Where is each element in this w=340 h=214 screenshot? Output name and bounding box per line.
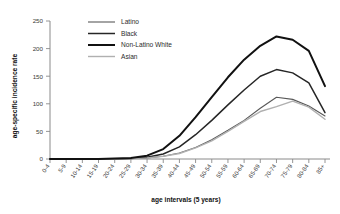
chart-figure: age-specific incidence rate 0 50 100 150… — [0, 0, 340, 214]
x-tick-label: 35-39 — [150, 163, 164, 180]
x-tick-label: 60-64 — [231, 163, 245, 180]
chart-legend: LatinoBlackNon-Latino WhiteAsian — [88, 18, 172, 60]
x-axis: 0-45-910-1415-1920-2425-2930-3435-3940-4… — [41, 159, 330, 204]
x-tick-label: 10-14 — [69, 163, 83, 180]
x-tick-label: 75-79 — [280, 163, 294, 180]
x-tick-label: 20-24 — [102, 163, 116, 180]
series-line-latino — [50, 97, 325, 159]
y-tick-label-200: 200 — [33, 45, 44, 52]
x-tick-label: 5-9 — [57, 163, 67, 174]
legend-label-non-latino-white: Non-Latino White — [121, 41, 172, 48]
legend-label-latino: Latino — [121, 18, 139, 25]
y-axis-title-group: age-specific incidence rate — [11, 54, 19, 139]
y-tick-label-150: 150 — [33, 73, 44, 80]
incidence-line-chart: age-specific incidence rate 0 50 100 150… — [0, 0, 340, 214]
x-tick-label: 80-84 — [296, 163, 310, 180]
x-tick-label: 15-19 — [86, 163, 100, 180]
series-layer — [50, 36, 325, 159]
legend-label-black: Black — [121, 30, 138, 37]
x-tick-label: 25-29 — [118, 163, 132, 180]
x-tick-label: 50-54 — [199, 163, 213, 180]
x-tick-label: 55-59 — [215, 163, 229, 180]
x-tick-labels: 0-45-910-1415-1920-2425-2930-3435-3940-4… — [41, 163, 326, 180]
y-ticks — [46, 21, 50, 159]
series-line-asian — [50, 101, 325, 159]
y-axis-title: age-specific incidence rate — [11, 54, 19, 139]
y-tick-label-100: 100 — [33, 100, 44, 107]
y-tick-label-250: 250 — [33, 17, 44, 24]
x-tick-label: 70-74 — [264, 163, 278, 180]
x-tick-label: 30-34 — [134, 163, 148, 180]
y-axis: 0 50 100 150 200 250 — [33, 17, 50, 162]
series-line-black — [50, 70, 325, 159]
legend-label-asian: Asian — [121, 53, 138, 60]
x-tick-label: 65-69 — [247, 163, 261, 180]
y-tick-label-0: 0 — [40, 155, 44, 162]
x-tick-label: 45-49 — [183, 163, 197, 180]
x-tick-label: 85+ — [315, 163, 326, 175]
y-tick-label-50: 50 — [36, 128, 43, 135]
x-axis-title: age intervals (5 years) — [151, 196, 220, 204]
x-tick-label: 0-4 — [41, 163, 51, 174]
x-tick-label: 40-44 — [167, 163, 181, 180]
